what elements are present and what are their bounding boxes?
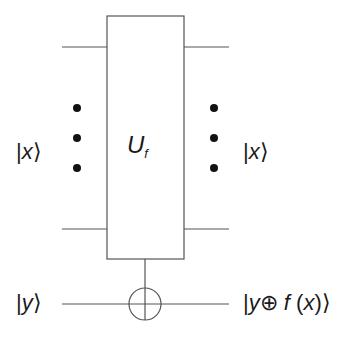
- circuit-canvas: [0, 0, 358, 338]
- output-y-label: |y⊕ f (x)⟩: [243, 292, 331, 314]
- input-x-label: |x⟩: [16, 141, 42, 163]
- output-x-label: |x⟩: [243, 141, 269, 163]
- input-y-label: |y⟩: [16, 292, 42, 314]
- gate-label: Uf: [127, 133, 148, 160]
- ellipsis-dots-right-icon: [210, 104, 218, 172]
- ellipsis-dots-left-icon: [73, 104, 81, 172]
